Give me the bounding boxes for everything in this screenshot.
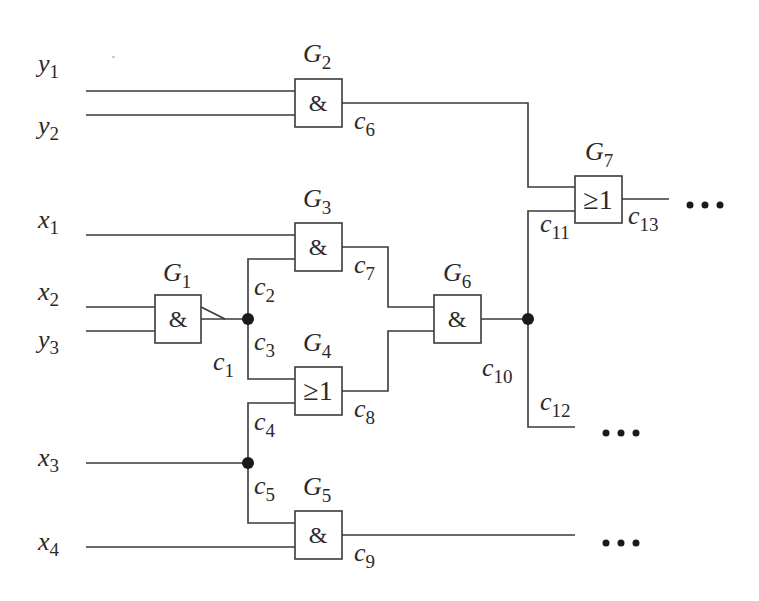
connection-label-c7: c7 [354,250,375,284]
gate-symbol-and: & [448,306,467,332]
ellipsis-c13-icon [687,202,724,209]
connection-label-c4: c4 [254,407,276,441]
input-label-x3: x3 [37,443,59,476]
connection-label-c9: c9 [354,538,375,572]
connection-label-c13: c13 [628,201,659,235]
ellipsis-c12-icon [603,430,640,437]
junction-dot-x3 [242,457,254,469]
connection-label-c8: c8 [354,394,375,428]
gate-label-G2: G2 [303,39,331,73]
gate-G7: ≥1 [575,176,622,223]
gate-symbol-and: & [309,90,328,116]
connection-label-c5: c5 [254,471,275,505]
gate-G1: & [155,295,201,343]
gate-G4: ≥1 [295,367,342,415]
gate-symbol-or: ≥1 [583,184,612,215]
wire-c6 [342,103,575,187]
ellipsis-c9-icon [603,540,640,547]
wire-c8 [342,331,434,391]
logic-circuit-diagram: & & & ≥1 & & ≥1 G1 G2 G3 G4 G5 G6 G7 y1 … [0,0,759,601]
input-label-x2: x2 [37,277,59,310]
junction-dot-c10 [522,313,534,325]
gate-symbol-and: & [169,306,188,332]
gate-symbol-or: ≥1 [303,375,332,406]
input-labels: y1 y2 x1 x2 y3 x3 x4 [35,49,60,560]
junction-dot-c1 [242,313,254,325]
input-label-y2: y2 [35,111,59,144]
gate-G6: & [434,295,481,343]
gate-G3: & [295,223,342,271]
gate-label-G6: G6 [443,258,471,292]
gate-label-G4: G4 [303,328,332,362]
input-label-x1: x1 [37,205,59,238]
connection-label-c10: c10 [482,353,513,387]
connection-label-c2: c2 [254,272,275,306]
connection-label-c6: c6 [354,106,375,140]
gate-G5: & [295,511,342,559]
connection-label-c3: c3 [254,327,275,361]
input-label-y1: y1 [35,49,59,82]
gate-symbol-and: & [309,234,328,260]
connection-label-c12: c12 [540,387,571,421]
input-label-x4: x4 [37,527,60,560]
input-label-y3: y3 [35,325,59,358]
gate-label-G5: G5 [303,472,331,506]
gate-symbol-and: & [309,522,328,548]
gate-label-G3: G3 [303,184,331,218]
wire-c1-notch [201,307,225,319]
connection-label-c11: c11 [540,209,570,243]
gate-label-G7: G7 [585,137,613,171]
gate-G2: & [295,79,342,127]
connection-label-c1: c1 [213,347,234,381]
gate-label-G1: G1 [163,258,191,292]
